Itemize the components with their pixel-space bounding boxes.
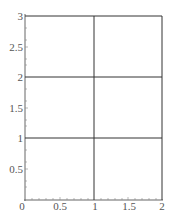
- y-label-0.5: 0.5: [9, 163, 23, 175]
- origin-label: 0: [19, 200, 25, 212]
- y-label-1: 1: [18, 132, 24, 144]
- x-label-0.5: 0.5: [53, 200, 67, 212]
- x-label-2: 2: [159, 200, 165, 212]
- y-tick-labels: 3 2.5 2 1.5 1 0.5: [9, 10, 23, 175]
- y-label-3: 3: [18, 10, 24, 22]
- y-label-1.5: 1.5: [9, 102, 23, 114]
- x-label-1.5: 1.5: [122, 200, 136, 212]
- x-label-1: 1: [92, 200, 98, 212]
- plot-lines: [25, 16, 162, 200]
- y-label-2.5: 2.5: [9, 41, 23, 53]
- x-tick-labels: 0 0.5 1 1.5 2: [19, 200, 165, 212]
- chart-canvas: 3 2.5 2 1.5 1 0.5 0 0.5 1 1.5 2: [0, 0, 173, 217]
- y-label-2: 2: [18, 71, 24, 83]
